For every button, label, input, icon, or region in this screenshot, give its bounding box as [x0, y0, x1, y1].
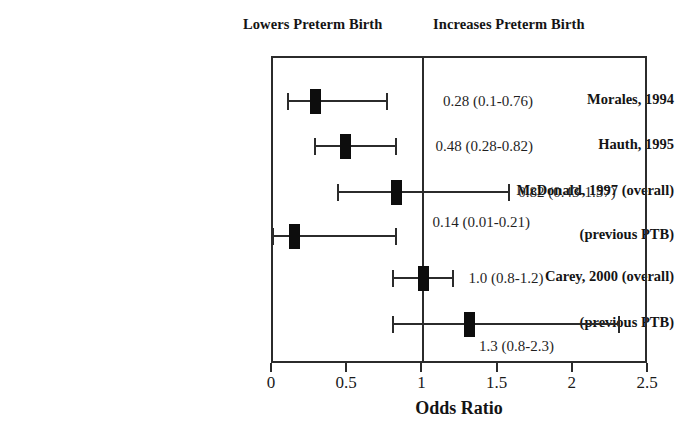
ci-cap-high — [395, 138, 397, 155]
header-lowers-preterm-birth: Lowers Preterm Birth — [243, 16, 382, 33]
ci-cap-high — [395, 228, 397, 245]
confidence-interval-line — [393, 323, 619, 325]
forest-plot-figure: Lowers Preterm Birth Increases Preterm B… — [0, 0, 682, 440]
confidence-interval-line — [338, 191, 509, 193]
reference-line-at-or-1 — [422, 58, 424, 361]
ci-cap-high — [452, 270, 454, 287]
value-label: 1.3 (0.8-2.3) — [479, 338, 554, 355]
ci-cap-low — [392, 316, 394, 333]
axis-tick-label: 0 — [267, 373, 276, 393]
ci-cap-low — [314, 138, 316, 155]
ci-cap-high — [618, 316, 620, 333]
ci-cap-low — [272, 228, 274, 245]
axis-tick-label: 1 — [417, 373, 426, 393]
ci-cap-high — [508, 184, 510, 201]
x-axis-title: Odds Ratio — [271, 398, 647, 419]
axis-tick — [270, 363, 272, 372]
value-label: 1.0 (0.8-1.2) — [469, 270, 544, 287]
value-label: 0.48 (0.28-0.82) — [435, 138, 533, 155]
point-estimate-marker — [310, 89, 321, 114]
axis-tick — [496, 363, 498, 372]
value-label: 0.14 (0.01-0.21) — [432, 214, 530, 231]
axis-tick — [646, 363, 648, 372]
point-estimate-marker — [464, 312, 475, 337]
value-label: 0.82 (0.43-1.57) — [518, 184, 616, 201]
axis-tick-label: 2.5 — [636, 373, 657, 393]
value-label: 0.28 (0.1-0.76) — [443, 93, 533, 110]
point-estimate-marker — [418, 266, 429, 291]
plot-frame: 0.28 (0.1-0.76)0.48 (0.28-0.82)0.82 (0.4… — [271, 56, 647, 363]
axis-tick — [345, 363, 347, 372]
axis-tick — [420, 363, 422, 372]
ci-cap-high — [386, 93, 388, 110]
axis-tick-label: 2 — [568, 373, 577, 393]
point-estimate-marker — [289, 224, 300, 249]
axis-tick — [571, 363, 573, 372]
axis-tick-label: 1.5 — [486, 373, 507, 393]
header-increases-preterm-birth: Increases Preterm Birth — [433, 16, 585, 33]
ci-cap-low — [337, 184, 339, 201]
x-axis: 00.511.522.5 — [271, 363, 647, 373]
ci-cap-low — [392, 270, 394, 287]
point-estimate-marker — [391, 180, 402, 205]
point-estimate-marker — [340, 134, 351, 159]
axis-tick-label: 0.5 — [336, 373, 357, 393]
ci-cap-low — [287, 93, 289, 110]
confidence-interval-line — [315, 145, 396, 147]
confidence-interval-line — [288, 100, 387, 102]
